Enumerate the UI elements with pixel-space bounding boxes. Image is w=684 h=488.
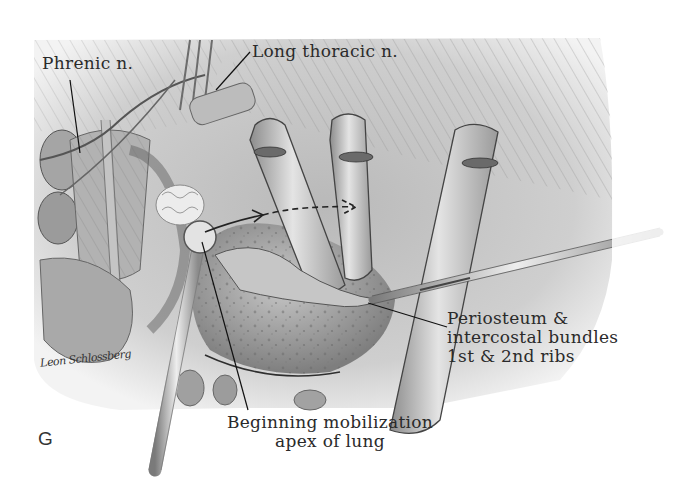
label-periosteum-line-1: Periosteum & xyxy=(447,309,618,328)
label-periosteum: Periosteum & intercostal bundles 1st & 2… xyxy=(447,309,618,366)
label-mobilization: Beginning mobilization apex of lung xyxy=(215,413,445,451)
node-1 xyxy=(176,370,204,406)
gauze-pad xyxy=(156,185,204,225)
surgical-illustration: Phrenic n. Long thoracic n. Periosteum &… xyxy=(0,0,684,488)
label-mobilization-line-1: Beginning mobilization xyxy=(215,413,445,432)
edge-fade xyxy=(612,30,684,430)
node-3 xyxy=(294,390,326,410)
label-mobilization-line-2: apex of lung xyxy=(215,432,445,451)
plate-letter: G xyxy=(38,428,53,450)
retractor-tip xyxy=(184,221,216,253)
label-phrenic-nerve: Phrenic n. xyxy=(42,55,133,72)
label-periosteum-line-3: 1st & 2nd ribs xyxy=(447,347,618,366)
label-long-thoracic-nerve: Long thoracic n. xyxy=(252,43,398,60)
node-2 xyxy=(213,375,237,405)
label-periosteum-line-2: intercostal bundles xyxy=(447,328,618,347)
muscle-stump-lower xyxy=(38,192,78,244)
